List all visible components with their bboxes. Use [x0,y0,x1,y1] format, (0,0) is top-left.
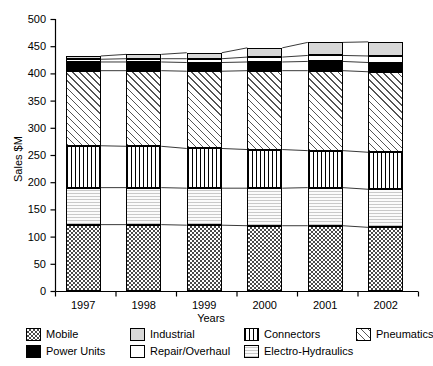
legend-swatch-icon [356,328,371,341]
bar-segment [66,71,101,146]
bar-segment [126,59,161,62]
bar-segment [126,146,161,187]
x-axis-tick-label: 1999 [179,299,229,311]
bar-segment [66,188,101,225]
x-axis-tick-label: 2001 [300,299,350,311]
legend-item[interactable]: Electro-Hydraulics [244,344,353,359]
legend-swatch-icon [26,345,41,358]
bar-segment [66,225,101,291]
x-axis-title: Years [0,312,422,324]
bar-segment [308,226,343,291]
bar-segment [247,188,282,226]
legend-item-label: Repair/Overhaul [150,345,230,358]
legend-item[interactable]: Repair/Overhaul [130,344,230,359]
legend-swatch-icon [130,328,145,341]
legend-swatch-icon [244,345,259,358]
bar-segment [187,53,222,59]
bar-segment [66,56,101,59]
bar-segment [308,61,343,70]
bar-segment [368,227,403,291]
bar-segment [368,56,403,63]
bar-segment [247,62,282,71]
legend-item-label: Connectors [264,328,320,341]
bar-segment [126,188,161,225]
bar-segment [126,62,161,71]
bar-segment [126,54,161,58]
legend-item-label: Industrial [150,328,195,341]
bar-segment [66,146,101,188]
legend-item-label: Pneumatics [376,328,433,341]
bar-segment [187,71,222,148]
legend-item[interactable]: Mobile [26,327,78,342]
bar-segment [187,225,222,291]
bar-segment [66,62,101,71]
bar-segment [308,71,343,151]
bar-segment [308,188,343,226]
bar-segment [126,225,161,291]
bar-segment [187,148,222,188]
bar-segment [126,71,161,147]
legend-item[interactable]: Connectors [244,327,320,342]
bar-segment [247,226,282,291]
bar-segment [66,59,101,62]
bar-segment [187,59,222,63]
legend-item-label: Mobile [46,328,78,341]
bar-segment [308,151,343,188]
legend-item-label: Power Units [46,345,105,358]
bar-segment [247,57,282,62]
bar-segment [247,71,282,150]
x-axis-tick-label: 1998 [119,299,169,311]
bar-segment [368,42,403,56]
legend-swatch-icon [244,328,259,341]
legend-item[interactable]: Pneumatics [356,327,433,342]
bar-segment [368,63,403,72]
legend-item[interactable]: Industrial [130,327,195,342]
bar-segment [247,48,282,57]
bar-segment [247,150,282,189]
legend-item-label: Electro-Hydraulics [264,345,353,358]
bar-segment [308,55,343,61]
chart-legend: MobilePower UnitsIndustrialRepair/Overha… [26,327,418,363]
legend-swatch-icon [130,345,145,358]
bar-segment [368,152,403,189]
bar-segment [368,72,403,153]
x-axis-tick-label: 2000 [240,299,290,311]
legend-swatch-icon [26,328,41,341]
bar-segment [308,42,343,55]
x-axis-tick-label: 1997 [58,299,108,311]
bar-segment [187,188,222,225]
bar-segment [368,189,403,227]
legend-item[interactable]: Power Units [26,344,105,359]
bar-segment [187,63,222,72]
x-axis-tick-label: 2002 [361,299,411,311]
